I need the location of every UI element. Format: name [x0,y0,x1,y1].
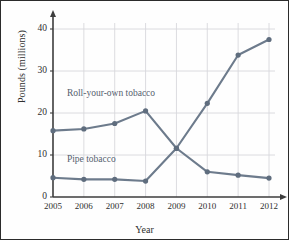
data-point-marker [266,176,271,181]
y-tick-label: 20 [25,107,47,117]
data-point-marker [81,126,86,131]
x-tick-label: 2006 [67,201,101,211]
x-tick-label: 2009 [159,201,193,211]
chart-figure: Pounds (millions) Year 010203040 2005200… [0,0,289,240]
y-tick-label: 40 [25,23,47,33]
x-axis-title: Year [1,224,288,235]
x-tick-label: 2005 [36,201,70,211]
data-point-marker [112,121,117,126]
data-point-marker [205,101,210,106]
x-tick-label: 2010 [190,201,224,211]
data-point-marker [50,175,55,180]
data-point-marker [143,108,148,113]
data-point-marker [236,173,241,178]
y-tick-label: 0 [25,191,47,201]
x-tick-label: 2011 [221,201,255,211]
data-point-marker [81,177,86,182]
data-point-marker [236,52,241,57]
data-point-marker [143,178,148,183]
data-point-marker [205,169,210,174]
data-point-marker [50,128,55,133]
y-tick-label: 10 [25,149,47,159]
data-point-marker [112,177,117,182]
data-point-marker [266,37,271,42]
x-tick-label: 2007 [98,201,132,211]
series-annotation-1: Pipe tobacco [67,154,116,164]
gridlines [53,23,275,197]
x-tick-label: 2008 [129,201,163,211]
axis-lines [50,10,287,200]
x-tick-label: 2012 [252,201,286,211]
series-line-0 [53,111,269,178]
series-annotation-0: Roll-your-own tobacco [67,88,155,98]
y-tick-label: 30 [25,65,47,75]
data-point-marker [174,146,179,151]
